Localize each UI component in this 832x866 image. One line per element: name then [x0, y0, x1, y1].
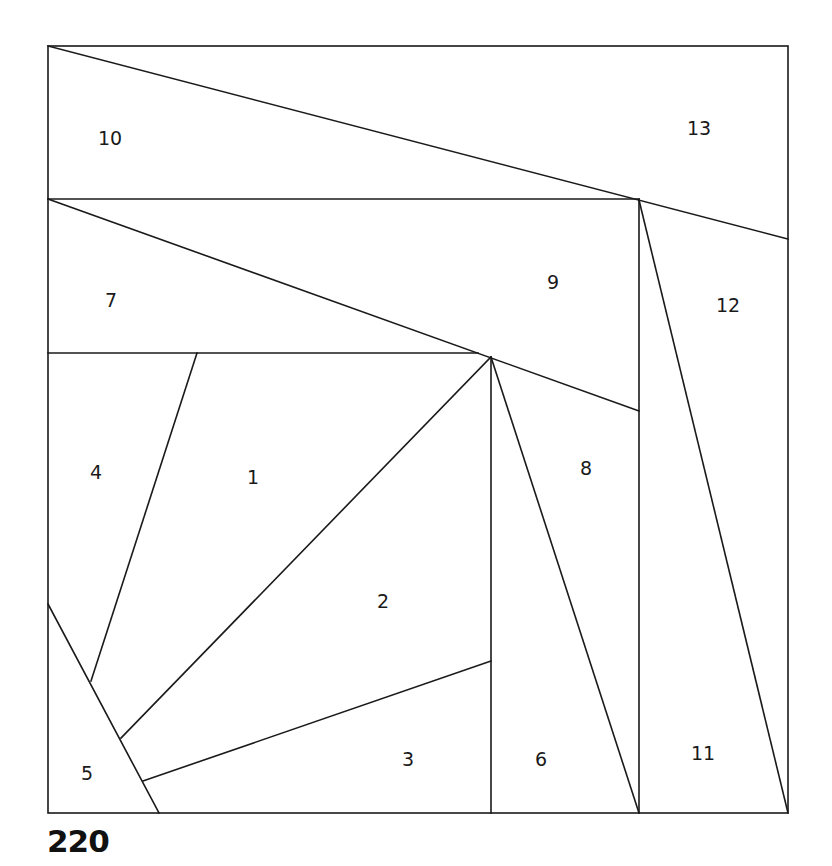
seam-line-diag-4-1 [91, 353, 197, 681]
region-label-11: 11 [691, 742, 715, 764]
seam-line-diag-10-13 [48, 46, 788, 239]
seam-line-diag-7-9 [48, 199, 639, 411]
seam-line-diag-8-6 [491, 357, 639, 813]
region-label-10: 10 [98, 127, 122, 149]
pattern-number: 220 [47, 826, 109, 857]
region-label-1: 1 [247, 466, 259, 488]
foundation-piecing-diagram: 10137912418261135 [0, 0, 832, 866]
region-label-3: 3 [402, 748, 414, 770]
region-label-6: 6 [535, 748, 547, 770]
region-labels: 10137912418261135 [81, 117, 740, 784]
region-label-7: 7 [105, 289, 117, 311]
seam-line-diag-2-3 [143, 661, 491, 781]
seam-lines [48, 46, 788, 813]
region-label-5: 5 [81, 762, 93, 784]
region-label-9: 9 [547, 271, 559, 293]
region-label-4: 4 [90, 461, 102, 483]
region-label-13: 13 [687, 117, 711, 139]
region-label-8: 8 [580, 457, 592, 479]
seam-line-diag-12-11 [639, 200, 788, 813]
region-label-2: 2 [377, 590, 389, 612]
seam-line-diag-4-5 [48, 604, 159, 813]
region-label-12: 12 [716, 294, 740, 316]
